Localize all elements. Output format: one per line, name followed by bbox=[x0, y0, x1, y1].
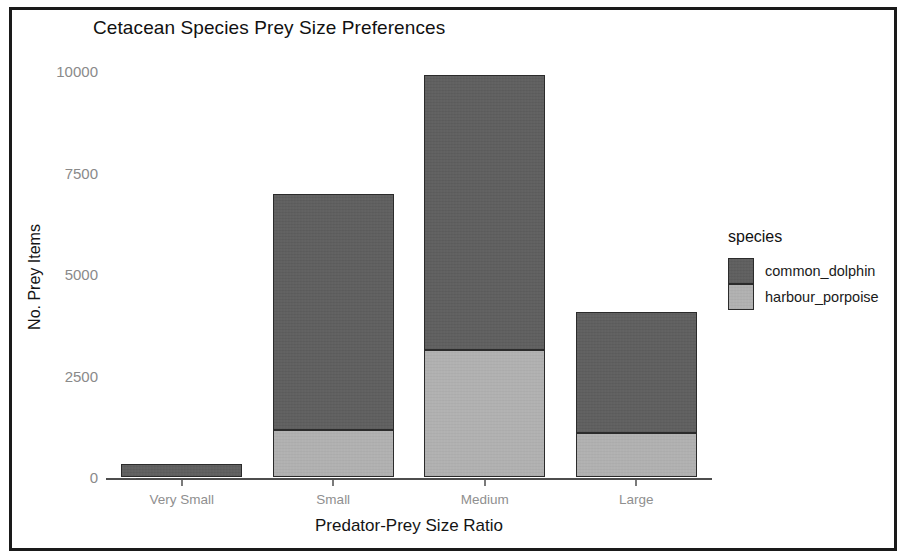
texture-overlay bbox=[274, 195, 393, 429]
bar-segment-common-dolphin[interactable] bbox=[576, 312, 697, 433]
bar-segment-harbour-porpoise[interactable] bbox=[424, 350, 545, 477]
x-tick-label: Small bbox=[316, 492, 350, 507]
chart-figure: Cetacean Species Prey Size Preferences 0… bbox=[0, 0, 906, 560]
x-tick-label: Medium bbox=[461, 492, 509, 507]
texture-overlay bbox=[577, 434, 696, 476]
texture-overlay bbox=[425, 351, 544, 476]
texture-overlay bbox=[122, 465, 241, 476]
legend-title: species bbox=[728, 228, 898, 246]
x-axis-line bbox=[106, 478, 712, 480]
texture-overlay bbox=[729, 285, 753, 309]
x-tick-label: Large bbox=[619, 492, 654, 507]
plot-area: Cetacean Species Prey Size Preferences 0… bbox=[0, 0, 906, 560]
y-tick-label: 7500 bbox=[65, 164, 98, 181]
texture-overlay bbox=[729, 259, 753, 283]
legend-item[interactable]: harbour_porpoise bbox=[728, 284, 898, 310]
legend-entries: common_dolphinharbour_porpoise bbox=[728, 258, 898, 310]
x-axis-title: Predator-Prey Size Ratio bbox=[106, 516, 712, 536]
legend-swatch bbox=[728, 284, 754, 310]
bar-segment-harbour-porpoise[interactable] bbox=[273, 430, 394, 477]
bar-group[interactable] bbox=[576, 55, 697, 478]
y-axis-title: No. Prey Items bbox=[26, 197, 44, 357]
legend-label: harbour_porpoise bbox=[765, 289, 879, 305]
x-tick-mark bbox=[181, 480, 183, 486]
bar-segment-harbour-porpoise[interactable] bbox=[576, 433, 697, 477]
bar-group[interactable] bbox=[273, 55, 394, 478]
texture-overlay bbox=[577, 313, 696, 432]
legend-label: common_dolphin bbox=[765, 263, 875, 279]
bars-panel bbox=[106, 55, 712, 478]
x-tick-mark bbox=[635, 480, 637, 486]
bar-segment-common-dolphin[interactable] bbox=[424, 75, 545, 350]
y-tick-label: 2500 bbox=[65, 367, 98, 384]
legend-swatch bbox=[728, 258, 754, 284]
texture-overlay bbox=[274, 431, 393, 476]
bar-segment-common-dolphin[interactable] bbox=[121, 464, 242, 477]
x-tick-mark bbox=[484, 480, 486, 486]
chart-title: Cetacean Species Prey Size Preferences bbox=[93, 17, 445, 39]
y-tick-label: 10000 bbox=[56, 63, 98, 80]
x-tick-label: Very Small bbox=[149, 492, 214, 507]
bar-group[interactable] bbox=[424, 55, 545, 478]
y-tick-label: 0 bbox=[90, 469, 98, 486]
bar-group[interactable] bbox=[121, 55, 242, 478]
texture-overlay bbox=[425, 76, 544, 349]
x-tick-mark bbox=[332, 480, 334, 486]
bar-segment-common-dolphin[interactable] bbox=[273, 194, 394, 430]
legend-item[interactable]: common_dolphin bbox=[728, 258, 898, 284]
legend: species common_dolphinharbour_porpoise bbox=[728, 228, 898, 310]
y-tick-label: 5000 bbox=[65, 266, 98, 283]
